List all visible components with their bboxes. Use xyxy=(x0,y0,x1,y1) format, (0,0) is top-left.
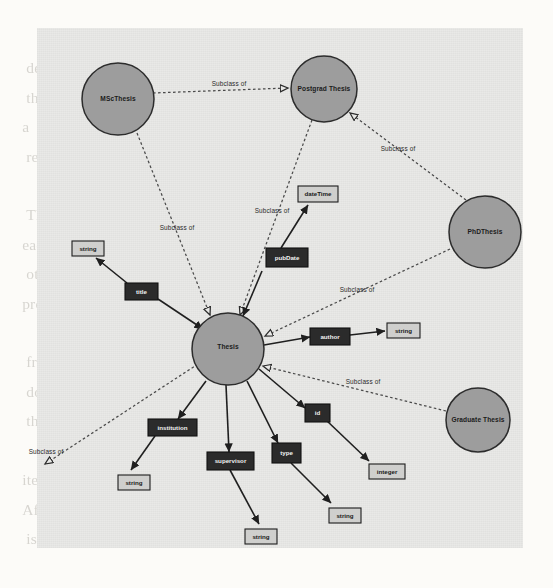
property-edge-id-integer xyxy=(326,420,369,461)
datatype-node-string-institution[interactable]: string xyxy=(118,475,150,490)
datatype-node-integer-id[interactable]: integer xyxy=(369,464,405,479)
class-node-label: Thesis xyxy=(217,343,239,350)
property-node-label: author xyxy=(320,333,340,340)
property-node-author[interactable]: author xyxy=(310,328,350,345)
scanned-page: the ble of the an the der of conc of the… xyxy=(0,0,553,588)
datatype-node-label: integer xyxy=(377,468,398,475)
edge-label-subclass-of: Subclass of xyxy=(160,224,195,231)
property-edge-thesis-title xyxy=(158,299,203,329)
property-edge-thesis-type xyxy=(247,381,278,443)
property-node-institution[interactable]: institution xyxy=(148,419,197,436)
property-node-label: pubDate xyxy=(275,254,300,261)
property-node-label: type xyxy=(280,449,293,456)
property-edge-title-string xyxy=(96,258,127,283)
subclass-edge-thesis-to-external: Subclass of xyxy=(29,364,198,464)
property-node-label: supervisor xyxy=(215,457,247,464)
property-node-label: institution xyxy=(158,424,188,431)
class-node-label: Graduate Thesis xyxy=(451,416,504,423)
class-node-postgrad-thesis[interactable]: Postgrad Thesis xyxy=(291,56,357,122)
datatype-node-label: string xyxy=(395,327,412,334)
property-node-label: title xyxy=(136,288,148,295)
subclass-edge-msc-to-postgrad: Subclass of xyxy=(153,80,288,93)
class-node-msc-thesis[interactable]: MScThesis xyxy=(82,63,154,135)
datatype-node-label: dateTime xyxy=(304,190,332,197)
subclass-edge-postgrad-to-thesis: Subclass of xyxy=(240,120,312,315)
property-node-label: id xyxy=(315,409,321,416)
ontology-graph: Subclass of Subclass of Subclass of Subc… xyxy=(0,0,553,588)
edge-label-subclass-of: Subclass of xyxy=(340,286,375,293)
datatype-node-string-supervisor[interactable]: string xyxy=(245,529,277,544)
property-node-pubdate[interactable]: pubDate xyxy=(266,248,308,267)
class-node-label: MScThesis xyxy=(100,95,136,102)
class-node-label: Postgrad Thesis xyxy=(298,85,351,93)
edge-label-subclass-of: Subclass of xyxy=(255,207,290,214)
datatype-node-label: string xyxy=(125,479,142,486)
class-node-thesis[interactable]: Thesis xyxy=(192,313,264,385)
edge-label-subclass-of: Subclass of xyxy=(381,145,416,152)
datatype-node-label: string xyxy=(336,512,353,519)
class-node-phd-thesis[interactable]: PhDThesis xyxy=(449,196,521,268)
property-edge-institution-string xyxy=(131,436,155,470)
property-edge-thesis-pubdate xyxy=(243,271,262,316)
property-node-title[interactable]: title xyxy=(125,283,158,300)
edge-label-subclass-of: Subclass of xyxy=(212,80,247,87)
datatype-node-string-type[interactable]: string xyxy=(329,508,361,523)
property-edge-thesis-author xyxy=(264,337,310,345)
datatype-node-label: string xyxy=(252,533,269,540)
property-node-id[interactable]: id xyxy=(305,404,330,422)
datatype-node-string-title[interactable]: string xyxy=(72,241,104,256)
property-edge-thesis-supervisor xyxy=(226,385,229,452)
subclass-edge-graduate-to-thesis: Subclass of xyxy=(263,366,446,411)
class-node-label: PhDThesis xyxy=(468,228,503,235)
property-edge-type-string xyxy=(291,463,331,503)
property-node-type[interactable]: type xyxy=(272,443,301,463)
datatype-node-string-author[interactable]: string xyxy=(387,323,420,338)
class-node-graduate-thesis[interactable]: Graduate Thesis xyxy=(446,388,510,452)
edge-label-subclass-of: Subclass of xyxy=(346,378,381,385)
property-edge-supervisor-string xyxy=(230,470,259,524)
subclass-edge-postgrad-to-phd: Subclass of xyxy=(350,113,466,200)
datatype-node-datetime[interactable]: dateTime xyxy=(298,186,338,202)
property-edge-thesis-institution xyxy=(178,381,206,419)
property-edge-author-string xyxy=(350,331,385,335)
property-node-supervisor[interactable]: supervisor xyxy=(207,452,254,470)
datatype-node-label: string xyxy=(79,245,96,252)
edge-label-subclass-of: Subclass of xyxy=(29,448,64,455)
